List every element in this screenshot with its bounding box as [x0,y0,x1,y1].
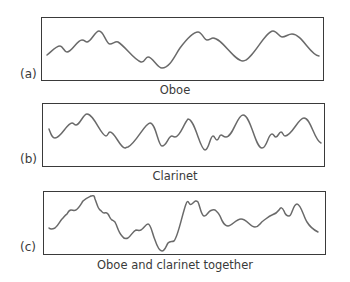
waveforms [0,0,350,282]
clarinet-waveform [49,114,321,150]
oboe-waveform [47,31,319,68]
combined-waveform [49,196,318,251]
